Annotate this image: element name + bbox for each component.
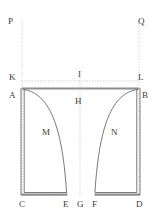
label-F: F xyxy=(92,200,97,209)
label-H: H xyxy=(75,97,82,106)
geometry-figure-canvas: P Q K I L A H B M N C E G F D xyxy=(0,0,161,219)
label-M: M xyxy=(42,128,50,137)
label-K: K xyxy=(9,73,16,82)
label-G: G xyxy=(77,200,84,209)
label-N: N xyxy=(111,128,118,137)
label-D: D xyxy=(136,200,143,209)
label-L: L xyxy=(138,73,144,82)
curve-N xyxy=(95,90,138,193)
label-A: A xyxy=(9,91,16,100)
label-B: B xyxy=(142,91,148,100)
label-E: E xyxy=(63,200,69,209)
label-P: P xyxy=(8,17,13,26)
figure-svg xyxy=(0,0,161,219)
label-Q: Q xyxy=(138,17,145,26)
curve-M xyxy=(24,90,67,193)
label-I: I xyxy=(78,70,81,79)
dotted-construction-lines xyxy=(22,20,139,197)
right-region-outline xyxy=(95,88,140,195)
label-C: C xyxy=(19,200,25,209)
